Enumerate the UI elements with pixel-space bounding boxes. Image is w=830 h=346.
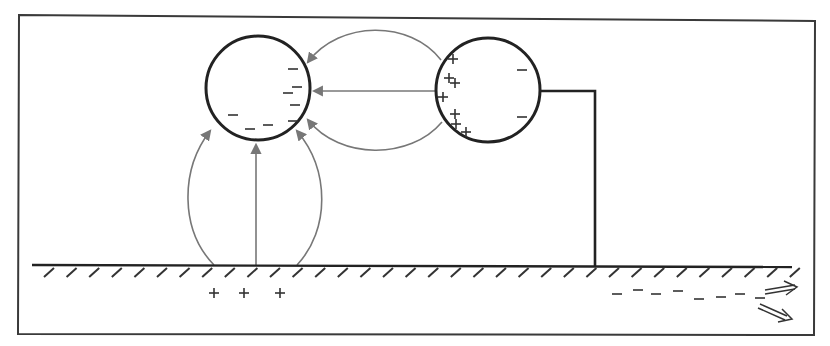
hatch-mark (406, 268, 416, 277)
diagram-frame (18, 15, 815, 335)
hatch-mark (67, 268, 77, 277)
flow-arrow-upper-icon (765, 281, 797, 295)
right-sphere (436, 38, 540, 142)
hatch-mark (202, 268, 212, 277)
hatch-mark (790, 268, 800, 277)
hatch-mark (767, 268, 777, 277)
hatch-mark (315, 268, 325, 277)
hatch-mark (428, 268, 438, 277)
hatch-mark (134, 268, 144, 277)
hatch-mark (609, 268, 619, 277)
hatch-mark (225, 268, 235, 277)
plus-charge-icon (239, 288, 249, 298)
hatch-mark (338, 268, 348, 277)
charge-flow-arrows (758, 281, 797, 322)
hatch-mark (541, 268, 551, 277)
hatch-mark (383, 268, 393, 277)
hatch-mark (293, 268, 303, 277)
hatch-mark (473, 268, 483, 277)
hatch-mark (654, 268, 664, 277)
flow-arrow-lower-icon (758, 304, 792, 322)
hatch-mark (112, 268, 122, 277)
plus-charge-icon (209, 288, 219, 298)
hatch-mark (677, 268, 687, 277)
hatch-mark (745, 268, 755, 277)
hatch-mark (519, 268, 529, 277)
induction-diagram (0, 0, 830, 346)
hatch-mark (632, 268, 642, 277)
hatch-mark (180, 268, 190, 277)
field-lines-from-ground (188, 131, 322, 265)
hatch-mark (586, 268, 596, 277)
field-lines-between-spheres (308, 30, 442, 150)
hatch-mark (451, 268, 461, 277)
hatch-mark (564, 268, 574, 277)
hatch-mark (699, 268, 709, 277)
ground (32, 265, 800, 277)
hatch-mark (722, 268, 732, 277)
hatch-mark (157, 268, 167, 277)
ground-hatching (44, 268, 800, 277)
plus-charge-icon (275, 288, 285, 298)
hatch-mark (247, 268, 257, 277)
left-sphere (206, 36, 310, 140)
hatch-mark (270, 268, 280, 277)
hatch-mark (89, 268, 99, 277)
hatch-mark (44, 268, 54, 277)
hatch-mark (496, 268, 506, 277)
hatch-mark (360, 268, 370, 277)
grounding-wire (540, 91, 595, 267)
